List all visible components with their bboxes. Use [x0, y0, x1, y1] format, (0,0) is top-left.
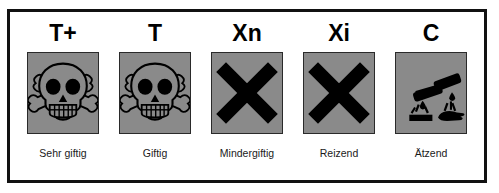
hazard-symbol-columns: T+ [10, 12, 484, 180]
hazard-symbol-chart-page: T+ [0, 0, 499, 193]
skull-and-crossbones-icon [119, 52, 191, 134]
saltire-cross-icon [303, 52, 375, 134]
hazard-code-label: Xi [328, 16, 350, 50]
hazard-column-c: C [385, 16, 477, 174]
chart-frame: T+ [7, 9, 487, 183]
hazard-code-label: T [148, 16, 162, 50]
hazard-code-label: Xn [232, 16, 261, 50]
saltire-cross-icon [211, 52, 283, 134]
hazard-column-xi: Xi Reizend [293, 16, 385, 174]
hazard-caption-label: Reizend [320, 147, 359, 159]
skull-and-crossbones-icon [27, 52, 99, 134]
hazard-caption-label: Sehr giftig [39, 147, 86, 159]
hazard-column-t: T [109, 16, 201, 174]
hazard-code-label: T+ [49, 16, 76, 50]
hazard-column-t-plus: T+ [17, 16, 109, 174]
hazard-caption-label: Ätzend [415, 147, 448, 159]
hazard-caption-label: Giftig [143, 147, 168, 159]
corrosive-icon [395, 52, 467, 134]
hazard-column-xn: Xn Mindergiftig [201, 16, 293, 174]
hazard-caption-label: Mindergiftig [220, 147, 274, 159]
hazard-code-label: C [423, 16, 440, 50]
